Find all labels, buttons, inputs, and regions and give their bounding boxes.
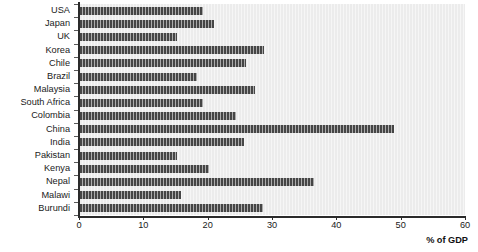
bar — [79, 112, 236, 120]
bar-row — [79, 30, 465, 43]
bar — [79, 204, 263, 212]
bar-row — [79, 162, 465, 175]
bar-row — [79, 17, 465, 30]
bar-row — [79, 202, 465, 215]
category-label: UK — [0, 30, 74, 43]
bar — [79, 165, 209, 173]
plot-area — [79, 4, 465, 215]
bar-row — [79, 70, 465, 83]
bar — [79, 191, 181, 199]
bar — [79, 20, 214, 28]
category-label: Colombia — [0, 110, 74, 123]
category-label: USA — [0, 4, 74, 17]
bar — [79, 178, 314, 186]
bar-row — [79, 4, 465, 17]
category-label: Brazil — [0, 70, 74, 83]
bar-row — [79, 44, 465, 57]
x-axis-tick-label: 50 — [396, 221, 406, 230]
x-axis-title: % of GDP — [426, 236, 468, 245]
x-axis-tick-label: 0 — [76, 221, 81, 230]
bar — [79, 73, 197, 81]
category-label: Pakistan — [0, 149, 74, 162]
bar-row — [79, 57, 465, 70]
category-label: Malawi — [0, 189, 74, 202]
bar-row — [79, 96, 465, 109]
category-label: Nepal — [0, 175, 74, 188]
category-label: Chile — [0, 57, 74, 70]
category-axis-labels: USAJapanUKKoreaChileBrazilMalaysiaSouth … — [0, 4, 74, 215]
x-axis-tick-label: 10 — [138, 221, 148, 230]
category-label: Korea — [0, 44, 74, 57]
bar — [79, 138, 244, 146]
x-axis-tick-label: 40 — [331, 221, 341, 230]
bar — [79, 59, 246, 67]
category-label: Malaysia — [0, 83, 74, 96]
y-axis-line — [78, 2, 80, 217]
bar — [79, 86, 255, 94]
bar-chart: USAJapanUKKoreaChileBrazilMalaysiaSouth … — [0, 0, 478, 252]
x-axis-tick-label: 20 — [203, 221, 213, 230]
category-label: Japan — [0, 17, 74, 30]
bar-row — [79, 175, 465, 188]
bar — [79, 125, 394, 133]
category-label: Burundi — [0, 202, 74, 215]
bar — [79, 46, 264, 54]
bar-row — [79, 110, 465, 123]
bar — [79, 33, 177, 41]
bar-series — [79, 4, 465, 215]
category-label: Kenya — [0, 162, 74, 175]
category-label: China — [0, 123, 74, 136]
x-axis-tick-label: 60 — [460, 221, 470, 230]
bar — [79, 99, 203, 107]
category-label: India — [0, 136, 74, 149]
bar-row — [79, 189, 465, 202]
x-axis-tick-label: 30 — [267, 221, 277, 230]
bar-row — [79, 149, 465, 162]
bar-row — [79, 136, 465, 149]
category-label: South Africa — [0, 96, 74, 109]
bar — [79, 152, 177, 160]
bar-row — [79, 123, 465, 136]
bar-row — [79, 83, 465, 96]
bar — [79, 7, 203, 15]
